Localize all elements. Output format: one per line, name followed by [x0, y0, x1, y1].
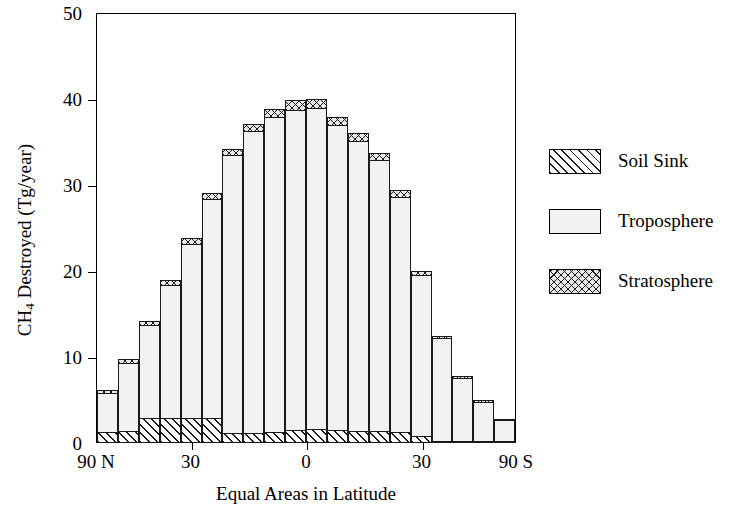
bar-segment-troposphere	[264, 117, 285, 433]
bar-column	[97, 14, 118, 442]
legend-label: Troposphere	[618, 210, 713, 232]
bar-segment-troposphere	[97, 393, 118, 433]
bar-segment-soil-sink	[181, 418, 202, 443]
y-axis-tick-label: 50	[63, 4, 82, 23]
plot-area	[96, 13, 516, 443]
bar-segment-troposphere	[432, 338, 453, 441]
legend-label: Stratosphere	[618, 270, 713, 292]
y-axis-tick	[88, 186, 97, 187]
y-axis-tick-label: 10	[63, 348, 82, 367]
bar-column	[452, 14, 473, 442]
x-axis-title: Equal Areas in Latitude	[96, 483, 516, 505]
bar-segment-soil-sink	[306, 429, 327, 443]
x-axis-tick-label: 90 N	[77, 452, 114, 471]
x-axis-tick-label: 30	[181, 452, 200, 471]
legend: Soil SinkTroposphereStratosphere	[549, 131, 749, 311]
bar-segment-troposphere	[181, 244, 202, 419]
bar-segment-troposphere	[243, 131, 264, 434]
chart-figure: CH4 Destroyed (Tg/year) 01020304050 90 N…	[0, 0, 751, 515]
bar-column	[390, 14, 411, 442]
bar-column	[306, 14, 327, 442]
bar-segment-troposphere	[118, 363, 139, 433]
legend-swatch-soil-sink	[549, 149, 601, 174]
bar-column	[432, 14, 453, 442]
bar-column	[494, 14, 515, 442]
bar-segment-troposphere	[348, 141, 369, 433]
bar-segment-troposphere	[473, 402, 494, 442]
bar-segment-soil-sink	[160, 418, 181, 443]
bar-column	[327, 14, 348, 442]
bar-segment-soil-sink	[432, 441, 453, 444]
bar-segment-troposphere	[139, 325, 160, 420]
bar-segment-soil-sink	[264, 432, 285, 443]
bar-segment-soil-sink	[222, 433, 243, 443]
bar-segment-soil-sink	[202, 418, 223, 443]
bar-column	[411, 14, 432, 442]
bar-segment-soil-sink	[411, 436, 432, 443]
bar-segment-soil-sink	[118, 431, 139, 443]
y-axis-tick	[88, 100, 97, 101]
bar-column	[222, 14, 243, 442]
bar-segment-troposphere	[452, 378, 473, 443]
bar-column	[473, 14, 494, 442]
bar-segment-soil-sink	[494, 441, 515, 443]
bar-segment-soil-sink	[139, 418, 160, 443]
y-axis-tick-labels: 01020304050	[0, 0, 90, 515]
bar-group	[97, 14, 515, 442]
bar-segment-troposphere	[369, 160, 390, 432]
legend-swatch-troposphere	[549, 209, 601, 234]
legend-swatch-stratosphere	[549, 269, 601, 294]
bar-segment-soil-sink	[285, 430, 306, 443]
bar-segment-troposphere	[390, 197, 411, 434]
bar-segment-troposphere	[285, 110, 306, 432]
bar-segment-soil-sink	[243, 433, 264, 443]
bar-segment-soil-sink	[97, 432, 118, 443]
legend-item: Soil Sink	[549, 131, 749, 191]
bar-segment-troposphere	[222, 155, 243, 434]
x-axis-tick-label: 30	[412, 452, 431, 471]
bar-column	[160, 14, 181, 442]
x-axis-tick-label: 90 S	[499, 452, 533, 471]
bar-column	[285, 14, 306, 442]
bar-column	[202, 14, 223, 442]
bar-segment-troposphere	[327, 125, 348, 431]
x-axis-tick	[192, 442, 193, 450]
x-axis-tick	[423, 442, 424, 450]
y-axis-tick	[88, 358, 97, 359]
y-axis-tick-label: 40	[63, 90, 82, 109]
legend-label: Soil Sink	[618, 150, 688, 172]
bar-segment-troposphere	[494, 420, 515, 442]
bar-segment-troposphere	[202, 199, 223, 419]
bar-segment-soil-sink	[452, 441, 473, 443]
bar-column	[264, 14, 285, 442]
x-axis-tick-label: 0	[301, 452, 311, 471]
bar-segment-troposphere	[411, 275, 432, 438]
bar-column	[118, 14, 139, 442]
x-axis-tick-labels: 90 N3003090 S	[0, 452, 751, 478]
y-axis-tick-label: 20	[63, 262, 82, 281]
bar-segment-soil-sink	[348, 431, 369, 443]
legend-item: Stratosphere	[549, 251, 749, 311]
legend-item: Troposphere	[549, 191, 749, 251]
y-axis-tick-label: 30	[63, 176, 82, 195]
bar-segment-troposphere	[160, 285, 181, 419]
bar-segment-soil-sink	[390, 432, 411, 443]
bar-segment-soil-sink	[327, 430, 348, 443]
y-axis-tick-label: 0	[73, 434, 83, 453]
bar-segment-soil-sink	[473, 441, 494, 443]
x-axis-tick	[307, 442, 308, 450]
bar-segment-troposphere	[306, 108, 327, 431]
bar-column	[139, 14, 160, 442]
bar-column	[181, 14, 202, 442]
bar-column	[369, 14, 390, 442]
bar-column	[348, 14, 369, 442]
bar-segment-soil-sink	[369, 431, 390, 443]
bar-column	[243, 14, 264, 442]
y-axis-tick	[88, 272, 97, 273]
